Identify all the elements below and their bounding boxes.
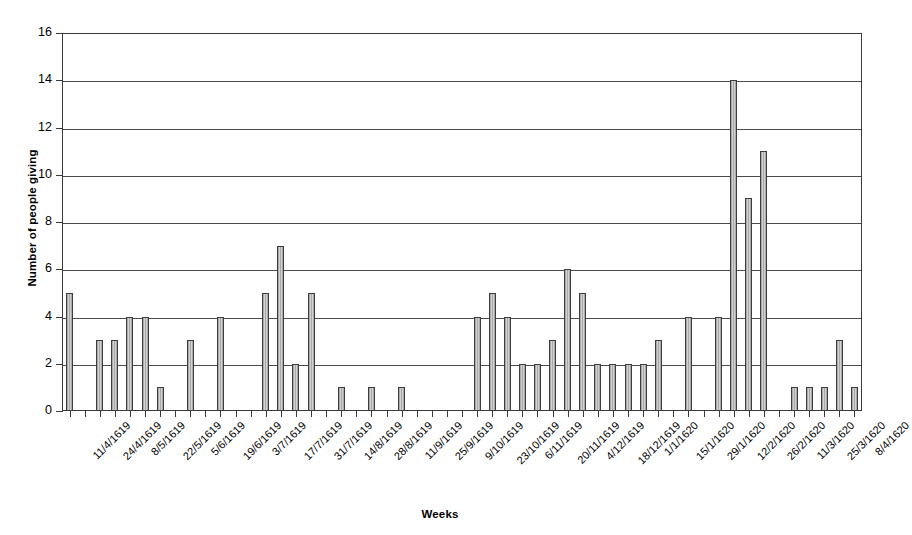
bar <box>398 387 405 411</box>
bar <box>217 317 224 412</box>
bar <box>791 387 798 411</box>
bar <box>489 293 496 411</box>
bar <box>609 364 616 411</box>
bar <box>640 364 647 411</box>
bar <box>368 387 375 411</box>
bar <box>187 340 194 411</box>
y-tick-label: 6 <box>8 261 52 275</box>
bar <box>126 317 133 412</box>
bar <box>338 387 345 411</box>
bar <box>277 246 284 411</box>
x-axis-title: Weeks <box>0 508 880 520</box>
bar <box>594 364 601 411</box>
bar <box>504 317 511 412</box>
y-tick-label: 2 <box>8 356 52 370</box>
bar <box>292 364 299 411</box>
bar <box>111 340 118 411</box>
y-tick-label: 16 <box>8 25 52 39</box>
bar <box>821 387 828 411</box>
y-tick-label: 10 <box>8 167 52 181</box>
bar <box>685 317 692 412</box>
bar <box>96 340 103 411</box>
bar <box>730 80 737 411</box>
y-tick-label: 4 <box>8 309 52 323</box>
bar <box>625 364 632 411</box>
bar <box>851 387 858 411</box>
bar <box>308 293 315 411</box>
bar <box>534 364 541 411</box>
bar <box>836 340 843 411</box>
bar <box>715 317 722 412</box>
bar <box>579 293 586 411</box>
bar <box>745 198 752 411</box>
bars-layer <box>62 33 862 411</box>
y-tick-label: 12 <box>8 120 52 134</box>
bar <box>519 364 526 411</box>
bar <box>474 317 481 412</box>
bar <box>549 340 556 411</box>
y-tick-label: 8 <box>8 214 52 228</box>
bar <box>564 269 571 411</box>
bar <box>157 387 164 411</box>
bar <box>142 317 149 412</box>
bar <box>760 151 767 411</box>
bar <box>66 293 73 411</box>
bar <box>262 293 269 411</box>
x-axis-tick-labels: 11/4/161924/4/16198/5/161922/5/16195/6/1… <box>0 411 880 506</box>
bar <box>655 340 662 411</box>
y-tick-label: 14 <box>8 72 52 86</box>
bar <box>806 387 813 411</box>
